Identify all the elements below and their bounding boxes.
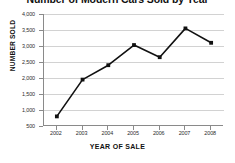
y-tick-label: 2,000 [11, 75, 35, 81]
data-point-marker [184, 27, 188, 31]
data-point-marker [106, 63, 110, 67]
y-tick-label: 4,000 [11, 11, 35, 17]
line-chart: Number of Modern Cars Sold by Year NUMBE… [0, 0, 235, 163]
chart-title: Number of Modern Cars Sold by Year [0, 0, 235, 5]
data-series-line [44, 14, 224, 126]
y-tick-label: 2,500 [11, 59, 35, 65]
x-tick-label: 2008 [195, 130, 225, 136]
y-tick-mark [39, 126, 43, 127]
data-point-marker [81, 78, 85, 82]
data-point-marker [158, 55, 162, 59]
plot-area [43, 14, 223, 126]
data-point-marker [209, 41, 213, 45]
y-tick-label: 500 [11, 123, 35, 129]
y-tick-label: 3,000 [11, 43, 35, 49]
data-point-marker [132, 43, 136, 47]
y-tick-label: 3,500 [11, 27, 35, 33]
y-tick-label: 1,500 [11, 91, 35, 97]
data-point-marker [55, 115, 59, 119]
y-tick-label: 1,000 [11, 107, 35, 113]
x-axis-label: YEAR OF SALE [0, 143, 235, 150]
series-polyline [57, 28, 211, 116]
